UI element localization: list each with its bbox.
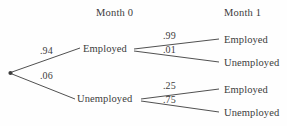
edge-probability-unemployed-month0: .06 [40,71,53,81]
edge-probability-unemployed-to-unemployed: .75 [163,95,176,105]
node-label-employed-month0: Employed [83,44,127,55]
leaf-label-employed-unemployed: Unemployed [224,58,279,69]
edge-probability-employed-month0: .94 [40,46,53,56]
edge-unemployed-to-unemployed [141,101,219,112]
column-header-month-1: Month 1 [224,8,261,19]
column-header-month-0: Month 0 [96,8,133,19]
probability-tree-figure: Month 0 Month 1 .94 .06 Employed Unemplo… [0,0,287,126]
node-label-unemployed-month0: Unemployed [77,94,132,105]
edge-probability-employed-to-unemployed: .01 [163,45,176,55]
leaf-label-unemployed-unemployed: Unemployed [224,108,279,119]
edge-probability-unemployed-to-employed: .25 [163,81,176,91]
edge-employed-to-unemployed [134,51,219,62]
leaf-label-employed-employed: Employed [224,35,268,46]
edge-probability-employed-to-employed: .99 [163,31,176,41]
leaf-label-unemployed-employed: Employed [224,85,268,96]
edge-employed-to-employed [134,39,219,49]
edge-unemployed-to-employed [141,89,219,99]
